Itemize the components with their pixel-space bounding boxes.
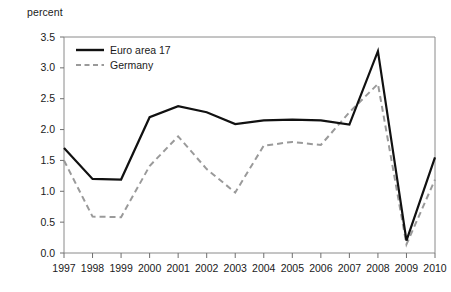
y-axis-tick-label: 2.0 [40,123,55,135]
y-axis-tick-label: 1.5 [40,154,55,166]
legend-label-euro-area-17: Euro area 17 [110,44,171,56]
x-axis-tick-label: 2008 [366,262,390,274]
x-axis-tick-label: 2000 [138,262,162,274]
x-axis-tick-label: 2001 [166,262,190,274]
legend-label-germany: Germany [110,59,154,71]
y-axis-tick-label: 1.0 [40,185,55,197]
legend: Euro area 17 Germany [76,44,171,71]
y-axis-tick-label: 0.0 [40,247,55,259]
x-axis-tick-label: 2002 [195,262,219,274]
y-axis-tick-label: 3.0 [40,61,55,73]
x-axis-tick-label: 2005 [281,262,305,274]
x-axis-tick-label: 2004 [252,262,276,274]
x-axis-tick-label: 1999 [109,262,133,274]
y-axis-tick-label: 0.5 [40,216,55,228]
y-axis-ticks: 0.00.51.01.52.02.53.03.5 [40,31,64,259]
series-line-germany [64,84,435,244]
x-axis-tick-label: 1998 [81,262,105,274]
chart-container: percent 0.00.51.01.52.02.53.03.5 1997199… [0,0,451,292]
x-axis-ticks: 1997199819992000200120022003200420052006… [52,253,447,274]
line-chart-plot: 0.00.51.01.52.02.53.03.5 199719981999200… [0,0,451,292]
x-axis-tick-label: 2007 [338,262,362,274]
x-axis-tick-label: 2010 [423,262,447,274]
x-axis-tick-label: 2003 [224,262,248,274]
y-axis-tick-label: 3.5 [40,31,55,43]
x-axis-tick-label: 1997 [52,262,76,274]
x-axis-tick-label: 2006 [309,262,333,274]
y-axis-tick-label: 2.5 [40,92,55,104]
series-line-euro-area-17 [64,51,435,240]
x-axis-tick-label: 2009 [395,262,419,274]
